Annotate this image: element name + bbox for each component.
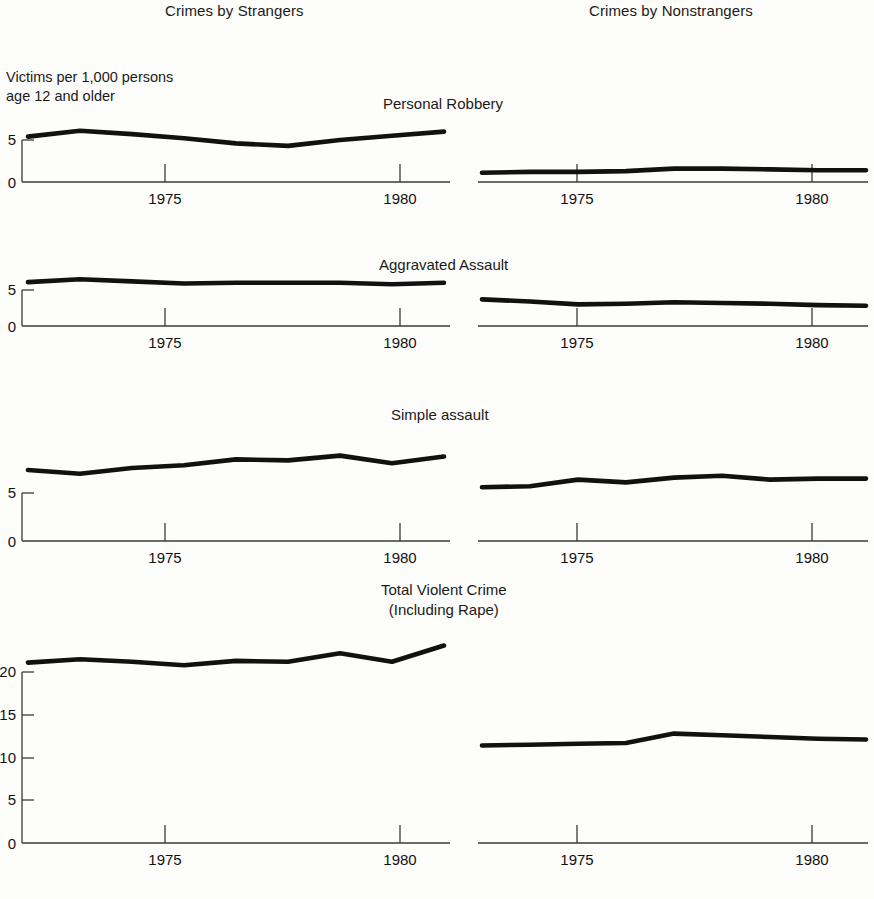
x-axis-tick-label: 1980 (383, 334, 416, 351)
x-axis-tick-label: 1975 (148, 334, 181, 351)
y-axis-tick-label: 5 (8, 281, 16, 298)
data-line-nonstrangers (482, 734, 866, 746)
x-axis-tick-label: 1980 (383, 851, 416, 868)
y-axis-tick-label: 20 (0, 663, 16, 680)
data-line-nonstrangers (482, 476, 866, 488)
y-axis-tick-label: 5 (8, 131, 16, 148)
data-line-nonstrangers (482, 169, 866, 173)
x-axis-tick-label: 1975 (560, 334, 593, 351)
x-axis-tick-label: 1980 (383, 549, 416, 566)
y-axis-tick-label: 10 (0, 749, 16, 766)
x-axis-tick-label: 1980 (795, 549, 828, 566)
data-line-strangers (28, 646, 444, 666)
x-axis-tick-label: 1975 (560, 190, 593, 207)
data-line-strangers (28, 131, 444, 146)
plot-canvas: 5019751980197519805019751980197519805019… (0, 0, 874, 899)
y-axis-tick-label: 5 (8, 791, 16, 808)
x-axis-tick-label: 1975 (148, 190, 181, 207)
y-axis-tick-label: 0 (8, 318, 16, 335)
x-axis-tick-label: 1975 (148, 851, 181, 868)
data-line-nonstrangers (482, 299, 866, 305)
data-line-strangers (28, 279, 444, 284)
x-axis-tick-label: 1980 (795, 334, 828, 351)
y-axis-tick-label: 0 (8, 835, 16, 852)
x-axis-tick-label: 1975 (148, 549, 181, 566)
x-axis-tick-label: 1980 (795, 190, 828, 207)
data-line-strangers (28, 456, 444, 474)
x-axis-tick-label: 1980 (383, 190, 416, 207)
x-axis-tick-label: 1980 (795, 851, 828, 868)
y-axis-tick-label: 0 (8, 174, 16, 191)
x-axis-tick-label: 1975 (560, 549, 593, 566)
y-axis-tick-label: 0 (8, 533, 16, 550)
y-axis-tick-label: 15 (0, 706, 16, 723)
y-axis-tick-label: 5 (8, 484, 16, 501)
chart-figure: Crimes by Strangers Crimes by Nonstrange… (0, 0, 874, 899)
x-axis-tick-label: 1975 (560, 851, 593, 868)
